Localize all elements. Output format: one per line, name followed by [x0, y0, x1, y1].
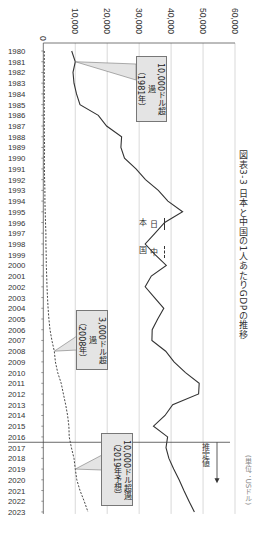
year-tick-label: 1998 [8, 240, 25, 249]
callout-pointer [75, 62, 136, 80]
year-tick-label: 2011 [8, 379, 25, 388]
legend-japan-label: 日本 [137, 218, 157, 228]
year-tick-label: 1993 [8, 186, 25, 195]
legend-china: 中国 [136, 246, 167, 258]
year-tick-label: 1981 [8, 58, 25, 67]
year-tick-label: 1991 [8, 165, 25, 174]
year-tick-label: 2019 [8, 465, 25, 474]
year-tick-label: 1983 [8, 79, 25, 88]
year-tick-label: 2006 [8, 326, 25, 335]
callout-pointer [75, 455, 102, 470]
callout-china-2019: 10,000ドル超過 （2019年予想） [101, 433, 133, 506]
callout-pointer [54, 336, 77, 351]
callout-china-2008: 3,000ドル超過 （2008年） [76, 310, 108, 370]
value-tick-label: 20,000 [102, 8, 112, 34]
year-tick-label: 2004 [8, 304, 26, 313]
value-tick-label: 0 [38, 36, 48, 41]
china-line [44, 51, 88, 512]
year-tick-label: 2016 [8, 433, 25, 442]
year-tick-label: 2000 [8, 261, 26, 270]
year-tick-label: 1988 [8, 133, 25, 142]
estimate-label: 推定値 [199, 443, 210, 467]
year-tick-label: 2014 [8, 411, 26, 420]
gdp-chart: 010,00020,00030,00040,00050,00060,000 19… [0, 0, 260, 534]
value-tick-label: 10,000 [70, 8, 80, 34]
unit-label: (単位：USドル) [243, 455, 253, 505]
legend-solid-swatch [164, 218, 166, 230]
callout-china-2019-text: 10,000ドル超過 [121, 437, 131, 502]
year-tick-label: 1984 [8, 90, 26, 99]
year-tick-label: 2003 [8, 294, 25, 303]
year-tick-label: 2007 [8, 336, 25, 345]
legend-dashed-swatch [164, 246, 165, 258]
year-tick-label: 2012 [8, 390, 25, 399]
year-tick-label: 2017 [8, 444, 25, 453]
legend-china-label: 中国 [137, 246, 157, 256]
year-axis: 1980198119821983198419851986198719881989… [8, 47, 43, 517]
year-tick-label: 2008 [8, 347, 25, 356]
year-tick-label: 1989 [8, 143, 25, 152]
callout-japan-1981-text: 10,000ドル超過 [145, 60, 165, 118]
year-tick-label: 1994 [8, 197, 26, 206]
callout-china-2008-year: （2008年） [76, 314, 86, 366]
year-tick-label: 2022 [8, 497, 25, 506]
year-tick-label: 1986 [8, 111, 25, 120]
value-tick-label: 50,000 [198, 8, 208, 34]
arrow-down-icon [215, 478, 220, 483]
callout-china-2008-text: 3,000ドル超過 [86, 314, 106, 366]
year-tick-label: 1997 [8, 229, 25, 238]
year-tick-label: 2018 [8, 454, 25, 463]
year-tick-label: 2002 [8, 283, 25, 292]
value-tick-label: 60,000 [230, 8, 240, 34]
year-tick-label: 2005 [8, 315, 26, 324]
year-tick-label: 2023 [8, 508, 25, 517]
year-tick-label: 2009 [8, 358, 25, 367]
year-tick-label: 1999 [8, 251, 25, 260]
year-tick-label: 1992 [8, 176, 25, 185]
year-tick-label: 2010 [8, 369, 26, 378]
year-tick-label: 1982 [8, 68, 25, 77]
year-tick-label: 2001 [8, 272, 25, 281]
year-tick-label: 1980 [8, 47, 26, 56]
year-tick-label: 2015 [8, 422, 26, 431]
year-tick-label: 2013 [8, 401, 25, 410]
legend-japan: 日本 [136, 218, 167, 230]
value-tick-label: 40,000 [166, 8, 176, 34]
value-tick-label: 30,000 [134, 8, 144, 34]
year-tick-label: 2021 [8, 487, 25, 496]
year-tick-label: 1996 [8, 219, 25, 228]
year-tick-label: 2020 [8, 476, 26, 485]
chart-title: 図表3-3 日本と中国の1人あたりGDPの推移 [237, 150, 250, 339]
year-tick-label: 1995 [8, 208, 26, 217]
year-tick-label: 1990 [8, 154, 26, 163]
year-tick-label: 1987 [8, 122, 25, 131]
callout-japan-1981-year: （1981年） [135, 60, 145, 118]
callout-china-2019-year: （2019年予想） [111, 437, 121, 502]
callout-japan-1981: 10,000ドル超過 （1981年） [136, 56, 167, 122]
callout-pointers [54, 62, 136, 470]
year-tick-label: 1985 [8, 101, 26, 110]
